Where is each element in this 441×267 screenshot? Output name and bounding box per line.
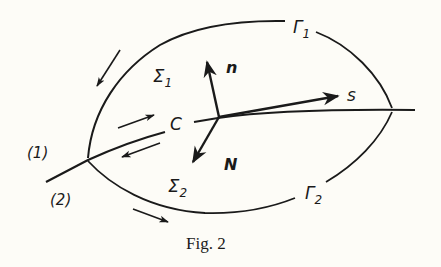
label-sigma2: Σ2 bbox=[168, 175, 187, 200]
label-vector-N: N bbox=[224, 155, 238, 174]
curve-gamma1 bbox=[88, 21, 285, 158]
vector-n bbox=[207, 62, 219, 117]
curve-gamma2 bbox=[88, 161, 295, 213]
label-branch-2: (2) bbox=[50, 191, 71, 209]
label-curve-c: C bbox=[170, 114, 182, 134]
figure-diagram: Γ1 Γ2 Σ1 Σ2 C n s N (1) (2) Fig. 2 bbox=[0, 0, 441, 267]
vector-N bbox=[193, 117, 219, 162]
vector-s bbox=[219, 96, 338, 117]
curve-c-left bbox=[46, 132, 165, 182]
arrow-gamma2-direction bbox=[133, 209, 168, 222]
curve-gamma2-right bbox=[326, 112, 392, 182]
figure-caption: Fig. 2 bbox=[186, 234, 226, 253]
label-gamma1: Γ1 bbox=[293, 17, 310, 41]
label-sigma1: Σ1 bbox=[153, 65, 172, 90]
arrow-c-upper-direction bbox=[118, 115, 154, 128]
label-gamma2: Γ2 bbox=[305, 183, 322, 207]
label-branch-1: (1) bbox=[27, 144, 48, 162]
label-vector-s: s bbox=[347, 85, 356, 105]
arrow-c-lower-direction bbox=[122, 143, 160, 157]
arrow-gamma1-direction bbox=[97, 50, 120, 86]
label-vector-n: n bbox=[226, 58, 237, 77]
